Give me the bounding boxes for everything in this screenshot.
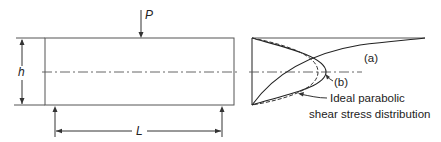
- curve-b-label: (b): [334, 76, 348, 88]
- height-label: h: [18, 65, 25, 79]
- stress-distribution: (a) (b) Ideal parabolic shear stress dis…: [249, 38, 430, 120]
- span-label: L: [136, 124, 143, 138]
- curve-a-label: (a): [364, 52, 378, 64]
- beam: [14, 38, 240, 105]
- load-label: P: [145, 8, 153, 22]
- ideal-label-line1: Ideal parabolic: [330, 92, 405, 104]
- beam-diagram: h P L (a): [0, 0, 441, 142]
- left-support-arrow: [53, 106, 58, 137]
- ideal-label-line2: shear stress distribution: [309, 108, 430, 120]
- load-arrow: P: [139, 8, 154, 38]
- height-dimension: h: [18, 39, 25, 104]
- ideal-parabolic-curve: [252, 38, 318, 105]
- span-dimension: L: [56, 124, 221, 138]
- right-support-arrow: [220, 106, 225, 137]
